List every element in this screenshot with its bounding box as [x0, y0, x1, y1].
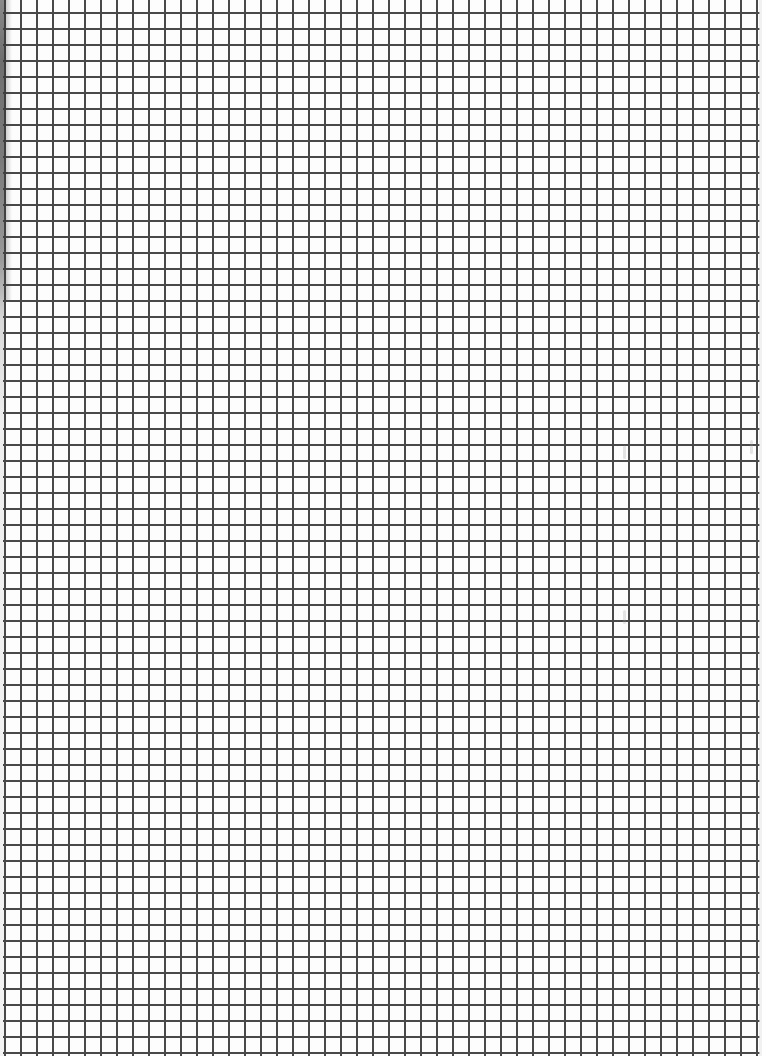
square-grid	[3, 0, 760, 1056]
scan-speck	[623, 445, 626, 459]
scan-speck	[623, 610, 626, 624]
scan-speck	[750, 440, 753, 454]
graph-paper-sheet	[0, 0, 762, 1056]
